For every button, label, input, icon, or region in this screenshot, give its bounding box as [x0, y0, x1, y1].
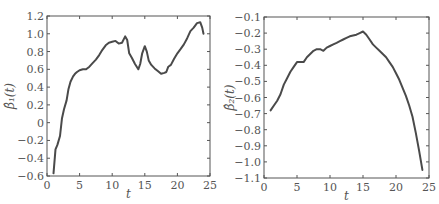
x-tick-label: 20	[170, 179, 184, 192]
y-tick-label: −0.2	[17, 134, 44, 147]
x-tick-label: 15	[356, 181, 370, 194]
x-tick-label: 10	[323, 181, 337, 194]
x-tick-label: 25	[203, 179, 217, 192]
y-axis: −0.6−0.4−0.200.20.40.60.81.01.2	[17, 10, 210, 183]
y-tick-label: 1.0	[27, 28, 45, 41]
plot-frame	[264, 17, 429, 178]
y-tick-label: 0.4	[27, 81, 45, 94]
y-axis-label: β̂₁(t)	[3, 83, 17, 110]
series-line-beta2_hat	[271, 32, 423, 170]
right-chart: 0510152025t−1.1−1.0−0.9−0.8−0.7−0.6−0.5−…	[223, 11, 436, 203]
x-axis: 0510152025	[44, 16, 218, 192]
y-tick-label: −0.8	[234, 124, 261, 137]
y-tick-label: −0.3	[234, 43, 261, 56]
y-tick-label: 0	[37, 117, 44, 130]
x-tick-label: 0	[44, 179, 51, 192]
x-tick-label: 0	[261, 181, 268, 194]
x-axis-label: t	[344, 189, 349, 203]
x-tick-label: 15	[138, 179, 152, 192]
y-tick-label: −1.0	[234, 156, 261, 169]
x-axis-label: t	[126, 187, 131, 201]
y-tick-label: −0.4	[234, 59, 261, 72]
y-tick-label: 0.2	[27, 99, 45, 112]
x-tick-label: 5	[294, 181, 301, 194]
y-tick-label: −0.6	[234, 92, 261, 105]
x-tick-label: 25	[422, 181, 436, 194]
x-tick-label: 10	[105, 179, 119, 192]
series-line-beta1_hat	[54, 22, 204, 173]
y-tick-label: −0.6	[17, 170, 44, 183]
left-chart: 0510152025t−0.6−0.4−0.200.20.40.60.81.01…	[3, 10, 217, 201]
y-tick-label: −0.4	[17, 152, 44, 165]
y-tick-label: −1.1	[234, 172, 261, 185]
y-tick-label: −0.5	[234, 75, 261, 88]
x-tick-label: 20	[389, 181, 403, 194]
figure: 0510152025t−0.6−0.4−0.200.20.40.60.81.01…	[0, 0, 439, 204]
y-axis-label: β̂₂(t)	[223, 84, 237, 111]
y-tick-label: 0.8	[27, 46, 45, 59]
y-tick-label: −0.2	[234, 27, 261, 40]
y-tick-label: −0.7	[234, 108, 261, 121]
y-tick-label: −0.9	[234, 140, 261, 153]
x-tick-label: 5	[76, 179, 83, 192]
y-tick-label: −0.1	[234, 11, 261, 24]
y-axis: −1.1−1.0−0.9−0.8−0.7−0.6−0.5−0.4−0.3−0.2…	[234, 11, 429, 185]
y-tick-label: 1.2	[27, 10, 45, 23]
y-tick-label: 0.6	[27, 63, 45, 76]
